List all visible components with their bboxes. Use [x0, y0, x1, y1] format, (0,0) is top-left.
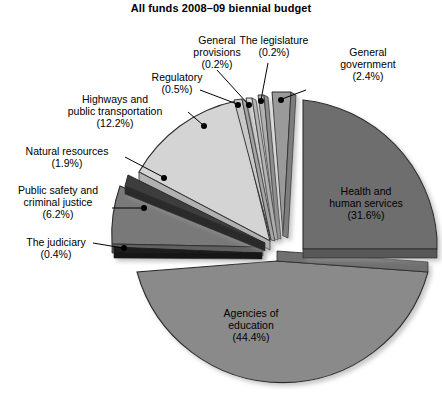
label-public-safety-line2: criminal justice: [6, 196, 110, 208]
label-education-pct: (44.4%): [203, 331, 299, 343]
label-education-line2: education: [203, 319, 299, 331]
label-regulatory: Regulatory (0.5%): [143, 71, 211, 95]
dot-regulatory: [235, 102, 241, 108]
label-the-judiciary: The judiciary (0.4%): [18, 236, 94, 260]
label-general-government-pct: (2.4%): [316, 70, 420, 82]
leader-line-general-provisions: [217, 70, 248, 104]
pie-chart-figure: All funds 2008–09 biennial budget: [0, 0, 442, 408]
label-public-safety-and-criminal-justice: Public safety and criminal justice (6.2%…: [6, 184, 110, 220]
label-highways-line1: Highways and: [44, 93, 186, 105]
slice-health-and-human-services[interactable]: [303, 100, 437, 258]
label-public-safety-pct: (6.2%): [6, 208, 110, 220]
dot-the-legislature: [258, 98, 264, 104]
label-health-and-human-services: Health and human services (31.6%): [318, 185, 414, 221]
dot-highways: [201, 123, 207, 129]
label-general-government-line2: government: [316, 58, 420, 70]
label-general-government: General government (2.4%): [316, 46, 420, 82]
label-public-safety-line1: Public safety and: [6, 184, 110, 196]
label-health-line2: human services: [318, 197, 414, 209]
label-highways-pct: (12.2%): [44, 117, 186, 129]
label-the-legislature-pct: (0.2%): [228, 46, 320, 58]
label-education-line1: Agencies of: [203, 307, 299, 319]
label-the-judiciary-line1: The judiciary: [18, 236, 94, 248]
label-health-line1: Health and: [318, 185, 414, 197]
dot-general-provisions: [246, 102, 252, 108]
label-the-legislature-line1: The legislature: [228, 34, 320, 46]
dot-general-government: [278, 97, 284, 103]
label-health-pct: (31.6%): [318, 209, 414, 221]
label-the-legislature: The legislature (0.2%): [228, 34, 320, 58]
label-general-provisions-pct: (0.2%): [167, 58, 267, 70]
label-regulatory-line1: Regulatory: [143, 71, 211, 83]
dot-natural-resources: [161, 175, 167, 181]
label-natural-resources: Natural resources (1.9%): [12, 145, 122, 169]
label-highways-line2: public transportation: [44, 105, 186, 117]
label-the-judiciary-pct: (0.4%): [18, 248, 94, 260]
label-agencies-of-education: Agencies of education (44.4%): [203, 307, 299, 343]
label-natural-resources-line1: Natural resources: [12, 145, 122, 157]
dot-the-judiciary: [121, 245, 127, 251]
label-natural-resources-pct: (1.9%): [12, 157, 122, 169]
label-highways-and-public-transportation: Highways and public transportation (12.2…: [44, 93, 186, 129]
dot-public-safety: [141, 205, 147, 211]
label-general-government-line1: General: [316, 46, 420, 58]
